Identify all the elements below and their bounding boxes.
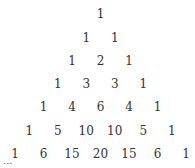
triangle-row-4: 14641 — [0, 98, 195, 116]
triangle-row-1: 11 — [0, 29, 195, 47]
triangle-entry: 1 — [182, 145, 190, 163]
triangle-entry: 2 — [97, 52, 105, 70]
triangle-row-0: 1 — [0, 5, 195, 23]
triangle-entry: 10 — [107, 122, 122, 140]
triangle-entry: 1 — [168, 122, 176, 140]
triangle-entry: 5 — [139, 122, 147, 140]
triangle-row-5: 15101051 — [0, 122, 195, 140]
triangle-entry: 3 — [111, 75, 119, 93]
triangle-entry: 6 — [40, 145, 48, 163]
triangle-entry: 20 — [93, 145, 108, 163]
triangle-entry: 1 — [111, 29, 119, 47]
triangle-row-6: 1615201561 — [0, 145, 195, 163]
triangle-entry: 3 — [82, 75, 90, 93]
triangle-entry: 15 — [64, 145, 79, 163]
triangle-entry: 1 — [125, 52, 133, 70]
triangle-entry: 1 — [139, 75, 147, 93]
triangle-entry: 1 — [82, 29, 90, 47]
triangle-entry: 1 — [54, 75, 62, 93]
triangle-row-3: 1331 — [0, 75, 195, 93]
triangle-entry: 1 — [25, 122, 33, 140]
triangle-entry: 4 — [68, 98, 76, 116]
continuation-ellipsis: ... — [3, 155, 13, 166]
triangle-entry: 4 — [125, 98, 133, 116]
triangle-entry: 6 — [154, 145, 162, 163]
triangle-entry: 10 — [79, 122, 94, 140]
triangle-entry: 1 — [40, 98, 48, 116]
triangle-entry: 1 — [68, 52, 76, 70]
triangle-entry: 15 — [121, 145, 136, 163]
triangle-entry: 5 — [54, 122, 62, 140]
triangle-entry: 1 — [154, 98, 162, 116]
triangle-row-2: 121 — [0, 52, 195, 70]
triangle-entry: 1 — [97, 5, 105, 23]
triangle-entry: 6 — [97, 98, 105, 116]
